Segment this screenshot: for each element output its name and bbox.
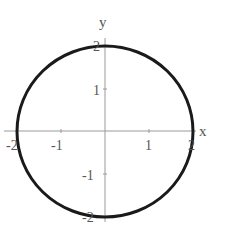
y-tick-label: 2 — [93, 39, 100, 54]
y-tick-label: 1 — [93, 83, 100, 98]
x-tick-label: -2 — [6, 138, 18, 153]
x-tick-label: 2 — [188, 138, 195, 153]
x-tick-label: -1 — [51, 138, 63, 153]
y-tick-label: -1 — [82, 168, 94, 183]
y-tick-label: -2 — [82, 210, 94, 225]
x-tick-label: 1 — [145, 138, 152, 153]
x-axis-label: x — [199, 123, 207, 139]
plot-area: -2 -1 1 2 2 1 -1 -2 x y — [0, 0, 225, 227]
y-axis-label: y — [99, 14, 107, 30]
